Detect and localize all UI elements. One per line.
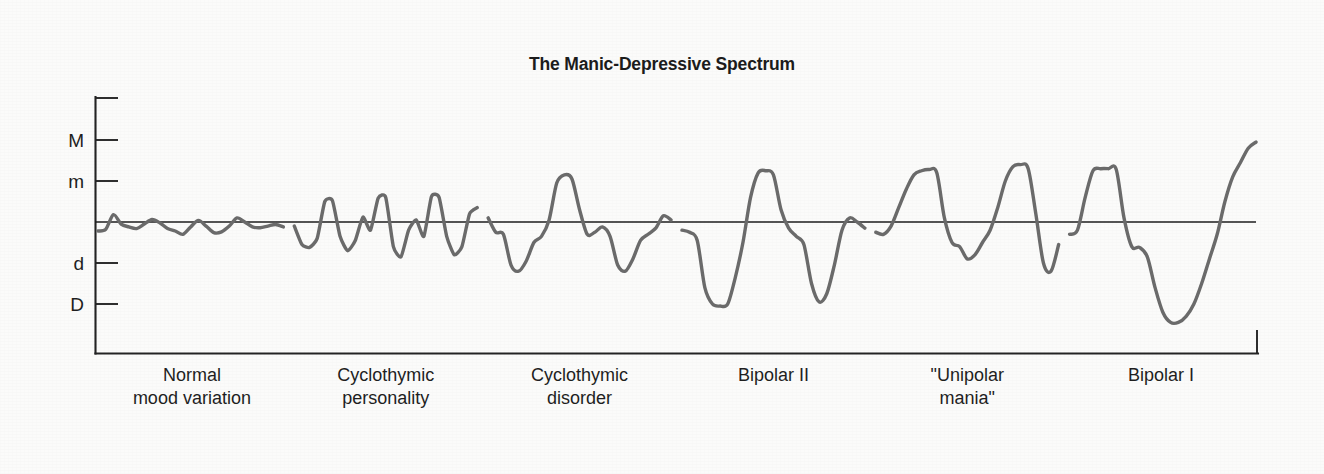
- x-category-label: Bipolar I: [1128, 365, 1194, 385]
- x-category-label: Bipolar II: [738, 365, 809, 385]
- mood-spectrum-plot: MmdD Normalmood variationCyclothymicpers…: [0, 0, 1324, 474]
- mood-trace-segment: [876, 164, 1059, 273]
- mood-trace-segment: [682, 170, 865, 306]
- x-category-label: Cyclothymicdisorder: [531, 365, 628, 408]
- x-category-label: "Unipolarmania": [931, 365, 1004, 408]
- y-tick-label-d: d: [73, 253, 84, 274]
- y-tick-label-M: M: [68, 130, 84, 151]
- y-tick-label-m: m: [68, 171, 84, 192]
- mood-trace-segment: [488, 175, 671, 272]
- mood-trace-segment: [1070, 142, 1256, 323]
- x-category-label: Cyclothymicpersonality: [337, 365, 434, 408]
- x-category-group: Normalmood variationCyclothymicpersonali…: [133, 365, 1194, 408]
- x-category-label: Normalmood variation: [133, 365, 251, 408]
- mood-trace-segment: [294, 194, 477, 257]
- mood-trace-group: [98, 142, 1256, 323]
- y-tick-label-D: D: [70, 294, 84, 315]
- mood-trace-segment: [98, 215, 283, 235]
- figure-canvas: The Manic-Depressive Spectrum MmdD Norma…: [0, 0, 1324, 474]
